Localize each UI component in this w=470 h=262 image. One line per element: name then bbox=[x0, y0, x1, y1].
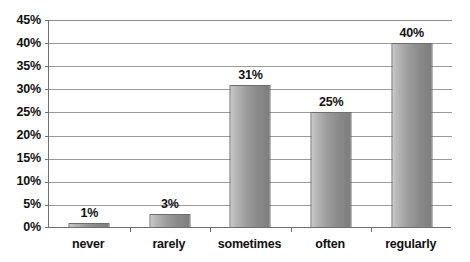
y-tick-label: 30% bbox=[0, 82, 41, 96]
x-axis: never rarely sometimes often regularly bbox=[48, 236, 451, 258]
y-tick-label: 15% bbox=[0, 151, 41, 165]
x-category-label-often: often bbox=[290, 236, 371, 252]
y-tick-label: 20% bbox=[0, 128, 41, 142]
bar-value-label-regularly: 40% bbox=[399, 26, 423, 40]
bar-slot-rarely: 3% bbox=[130, 20, 211, 228]
bar-often[interactable] bbox=[311, 112, 352, 228]
y-tick-label: 35% bbox=[0, 59, 41, 73]
bar-value-label-rarely: 3% bbox=[161, 197, 179, 211]
bar-slot-never: 1% bbox=[49, 20, 130, 228]
bar-regularly[interactable] bbox=[391, 43, 432, 228]
y-tick-label: 0% bbox=[0, 220, 41, 234]
x-category-label-rarely: rarely bbox=[129, 236, 210, 252]
bar-slot-often: 25% bbox=[291, 20, 372, 228]
y-tick-label: 10% bbox=[0, 174, 41, 188]
x-category-label-sometimes: sometimes bbox=[209, 236, 290, 252]
x-category-label-never: never bbox=[48, 236, 129, 252]
plot-area: 1% 3% 31% 25% 40% bbox=[48, 20, 451, 228]
y-tick-label: 5% bbox=[0, 197, 41, 211]
bar-slot-regularly: 40% bbox=[371, 20, 452, 228]
bar-never[interactable] bbox=[69, 223, 110, 228]
bar-rarely[interactable] bbox=[149, 214, 190, 228]
bar-sometimes[interactable] bbox=[230, 85, 271, 228]
bar-series: 1% 3% 31% 25% 40% bbox=[49, 20, 452, 228]
y-axis: 45% 40% 35% 30% 25% 20% 15% 10% 5% 0% bbox=[0, 12, 46, 228]
y-tick-label: 40% bbox=[0, 36, 41, 50]
y-tick-label: 45% bbox=[0, 13, 41, 27]
bar-value-label-never: 1% bbox=[80, 206, 98, 220]
bar-chart: 45% 40% 35% 30% 25% 20% 15% 10% 5% 0% bbox=[0, 0, 470, 262]
bar-value-label-often: 25% bbox=[319, 95, 343, 109]
x-category-label-regularly: regularly bbox=[370, 236, 451, 252]
bar-slot-sometimes: 31% bbox=[210, 20, 291, 228]
y-tick-label: 25% bbox=[0, 105, 41, 119]
bar-value-label-sometimes: 31% bbox=[238, 68, 262, 82]
